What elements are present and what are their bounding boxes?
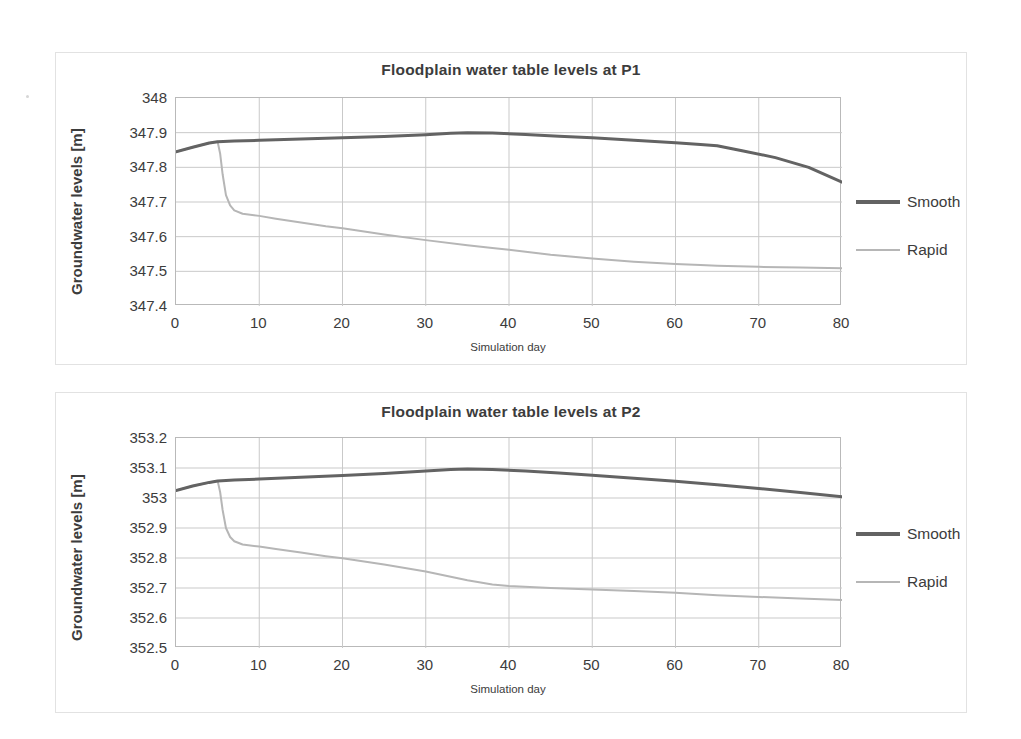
- chart-p1-title: Floodplain water table levels at P1: [56, 61, 966, 79]
- chart-p2-legend: SmoothRapid: [856, 525, 960, 621]
- legend-item-rapid[interactable]: Rapid: [856, 573, 960, 591]
- x-tick-label: 70: [749, 656, 766, 673]
- scan-speck: [26, 95, 29, 98]
- chart-p2-title: Floodplain water table levels at P2: [56, 403, 966, 421]
- chart-p2-canvas: [176, 438, 842, 648]
- y-tick-label: 353.2: [56, 429, 167, 446]
- x-tick-label: 40: [500, 314, 517, 331]
- legend-item-smooth[interactable]: Smooth: [856, 525, 960, 543]
- x-tick-label: 0: [171, 656, 179, 673]
- x-tick-label: 50: [583, 656, 600, 673]
- chart-p2: Floodplain water table levels at P2 Grou…: [55, 392, 967, 713]
- chart-p1-legend: SmoothRapid: [856, 193, 960, 289]
- y-tick-label: 347.9: [56, 123, 167, 140]
- chart-p2-plot-area: [175, 437, 841, 647]
- y-tick-label: 352.6: [56, 609, 167, 626]
- y-tick-label: 347.5: [56, 262, 167, 279]
- legend-line-icon: [856, 200, 900, 204]
- x-tick-label: 0: [171, 314, 179, 331]
- x-tick-label: 70: [749, 314, 766, 331]
- x-tick-label: 60: [666, 656, 683, 673]
- chart-p1-canvas: [176, 98, 842, 306]
- y-tick-label: 352.5: [56, 639, 167, 656]
- y-tick-label: 352.9: [56, 519, 167, 536]
- x-tick-label: 10: [250, 314, 267, 331]
- y-tick-label: 347.6: [56, 227, 167, 244]
- y-tick-label: 347.7: [56, 193, 167, 210]
- y-tick-label: 348: [56, 89, 167, 106]
- legend-line-icon: [856, 581, 900, 583]
- x-tick-label: 80: [833, 314, 850, 331]
- legend-item-rapid[interactable]: Rapid: [856, 241, 960, 259]
- x-tick-label: 80: [833, 656, 850, 673]
- x-tick-label: 60: [666, 314, 683, 331]
- legend-line-icon: [856, 249, 900, 251]
- y-tick-label: 353: [56, 489, 167, 506]
- x-tick-label: 10: [250, 656, 267, 673]
- legend-label: Smooth: [907, 525, 960, 543]
- x-tick-label: 30: [416, 656, 433, 673]
- x-tick-label: 40: [500, 656, 517, 673]
- legend-label: Rapid: [907, 573, 948, 591]
- x-tick-label: 30: [416, 314, 433, 331]
- x-tick-label: 20: [333, 656, 350, 673]
- legend-label: Rapid: [907, 241, 948, 259]
- chart-p2-x-axis-title: Simulation day: [470, 683, 545, 695]
- x-tick-label: 20: [333, 314, 350, 331]
- y-tick-label: 353.1: [56, 459, 167, 476]
- figure-page: Floodplain water table levels at P1 Grou…: [0, 0, 1021, 739]
- x-tick-label: 50: [583, 314, 600, 331]
- legend-label: Smooth: [907, 193, 960, 211]
- y-tick-label: 352.7: [56, 579, 167, 596]
- chart-p1-plot-area: [175, 97, 841, 305]
- legend-line-icon: [856, 532, 900, 536]
- y-tick-label: 347.8: [56, 158, 167, 175]
- chart-p1-x-axis-title: Simulation day: [470, 341, 545, 353]
- y-tick-label: 347.4: [56, 297, 167, 314]
- legend-item-smooth[interactable]: Smooth: [856, 193, 960, 211]
- y-tick-label: 352.8: [56, 549, 167, 566]
- gridlines: [176, 98, 842, 306]
- chart-p1: Floodplain water table levels at P1 Grou…: [55, 52, 967, 365]
